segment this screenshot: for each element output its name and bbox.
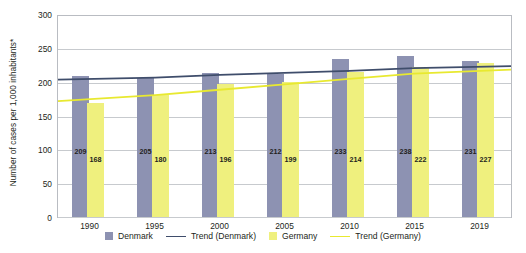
y-axis-tick-label: 50 [12, 180, 52, 188]
legend-line-swatch-icon [330, 236, 350, 237]
legend-item-label: Denmark [118, 231, 153, 241]
plot-area: 2091682051802131962121992332142382222312… [57, 15, 512, 218]
x-axis-tick-label: 1995 [125, 222, 185, 230]
y-axis-tick-label: 200 [12, 79, 52, 87]
chart-container: Number of cases per 1,000 inhabitants* 0… [0, 0, 526, 253]
x-axis-tick-label: 1990 [60, 222, 120, 230]
y-axis-tick-label: 0 [12, 214, 52, 222]
chart-legend: DenmarkTrend (Denmark)GermanyTrend (Germ… [0, 231, 526, 241]
x-axis-tick-label: 2019 [450, 222, 510, 230]
x-axis-tick-label: 2005 [255, 222, 315, 230]
x-axis-tick-label: 2010 [320, 222, 380, 230]
gridline [58, 217, 511, 218]
legend-item-label: Trend (Denmark) [191, 231, 256, 241]
legend-item-germany[interactable]: Germany [269, 231, 317, 241]
legend-square-swatch-icon [105, 232, 113, 240]
legend-item-label: Trend (Germany) [355, 231, 421, 241]
x-axis-tick-label: 2000 [190, 222, 250, 230]
legend-item-denmark[interactable]: Denmark [105, 231, 153, 241]
legend-square-swatch-icon [269, 232, 277, 240]
x-axis-tick-label: 2015 [385, 222, 445, 230]
trend-line-trend-germany- [58, 70, 511, 102]
legend-line-swatch-icon [166, 236, 186, 237]
legend-item-trend-denmark-[interactable]: Trend (Denmark) [166, 231, 256, 241]
y-axis-tick-label: 250 [12, 45, 52, 53]
y-axis-tick-label: 300 [12, 11, 52, 19]
y-axis-tick-label: 100 [12, 146, 52, 154]
y-axis-tick-label: 150 [12, 113, 52, 121]
legend-item-label: Germany [282, 231, 317, 241]
legend-item-trend-germany-[interactable]: Trend (Germany) [330, 231, 421, 241]
trend-lines [58, 15, 511, 217]
